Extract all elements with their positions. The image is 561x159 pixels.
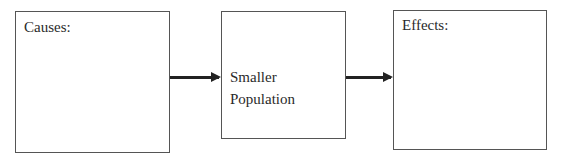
causes-label: Causes: (24, 16, 71, 38)
effects-label: Effects: (402, 14, 448, 36)
arrow-center-to-effects (346, 76, 391, 79)
center-box: Smaller Population (221, 11, 346, 139)
arrow-causes-to-center (170, 76, 219, 79)
center-label-line1: Smaller (230, 66, 277, 88)
effects-box: Effects: (393, 10, 547, 150)
center-label-line2: Population (230, 88, 295, 110)
causes-box: Causes: (15, 11, 170, 153)
